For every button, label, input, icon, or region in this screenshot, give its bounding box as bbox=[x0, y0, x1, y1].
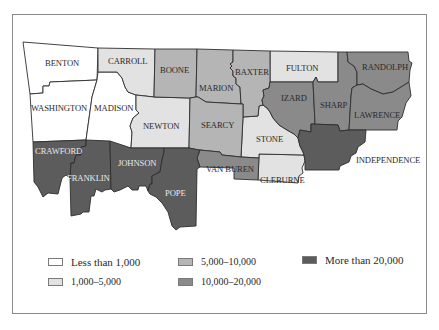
label-randolph: RANDOLPH bbox=[362, 62, 408, 72]
legend-swatch-white bbox=[48, 258, 63, 266]
legend-label: More than 20,000 bbox=[325, 254, 404, 266]
label-baxter: BAXTER bbox=[235, 67, 269, 77]
legend-item-1000-5000: 1,000–5,000 bbox=[48, 276, 121, 287]
legend-item-5000-10000: 5,000–10,000 bbox=[178, 256, 256, 267]
legend-swatch-dark-gray bbox=[178, 278, 193, 286]
label-carroll: CARROLL bbox=[108, 56, 147, 66]
label-van-buren: VAN BUREN bbox=[206, 164, 255, 174]
label-stone: STONE bbox=[256, 134, 283, 144]
label-crawford: CRAWFORD bbox=[35, 146, 82, 156]
label-searcy: SEARCY bbox=[201, 120, 234, 130]
label-johnson: JOHNSON bbox=[118, 158, 157, 168]
legend-label: Less than 1,000 bbox=[71, 256, 140, 268]
label-newton: NEWTON bbox=[143, 121, 180, 131]
label-izard: IZARD bbox=[281, 93, 307, 103]
label-fulton: FULTON bbox=[286, 63, 319, 73]
label-independence: INDEPENDENCE bbox=[356, 155, 420, 165]
legend-item-more-than-20000: More than 20,000 bbox=[302, 254, 404, 266]
legend-item-less-than-1000: Less than 1,000 bbox=[48, 256, 140, 268]
label-marion: MARION bbox=[199, 83, 234, 93]
label-benton: BENTON bbox=[45, 58, 80, 68]
legend-item-10000-20000: 10,000–20,000 bbox=[178, 276, 261, 287]
legend-label: 10,000–20,000 bbox=[201, 276, 261, 287]
legend-label: 5,000–10,000 bbox=[201, 256, 256, 267]
label-sharp: SHARP bbox=[320, 100, 348, 110]
label-washington: WASHINGTON bbox=[31, 103, 88, 113]
legend-label: 1,000–5,000 bbox=[71, 276, 121, 287]
legend-swatch-medium-gray bbox=[178, 258, 193, 266]
legend-swatch-light-gray bbox=[48, 278, 63, 286]
label-boone: BOONE bbox=[160, 65, 189, 75]
legend-swatch-darkest bbox=[302, 256, 317, 264]
label-pope: POPE bbox=[165, 188, 186, 198]
label-cleburne: CLEBURNE bbox=[260, 175, 305, 185]
label-franklin: FRANKLIN bbox=[67, 173, 111, 183]
label-lawrence: LAWRENCE bbox=[354, 110, 400, 120]
label-madison: MADISON bbox=[94, 103, 134, 113]
